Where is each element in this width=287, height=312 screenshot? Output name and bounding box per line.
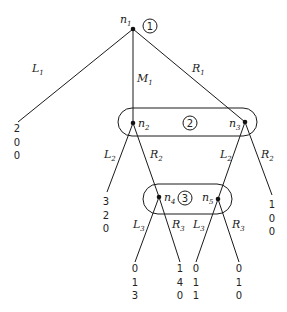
player-markers: 123 <box>143 19 197 205</box>
node-label-n4: n4 <box>164 191 176 206</box>
node-n2 <box>131 121 136 126</box>
edge-label-L2: L2 <box>219 148 232 163</box>
edge-label-R3: R3 <box>231 218 245 233</box>
edge-label-L3: L3 <box>132 218 145 233</box>
game-tree-diagram: L1M1R1L2R2L2R2L3R3L3R3 n1n2n3n4n5 123 20… <box>0 0 287 312</box>
edge-L1-from-n1 <box>18 29 133 122</box>
player-1-label: 1 <box>147 21 153 32</box>
decision-nodes: n1n2n3n4n5 <box>120 13 247 206</box>
payoff-M1-L2-p1: 3 <box>103 196 109 207</box>
edge-label-M1: M1 <box>136 72 153 87</box>
payoff-M1-L2-p2: 2 <box>103 210 109 221</box>
payoff-n4-R3-p2: 4 <box>177 277 183 288</box>
edge-label-R1: R1 <box>191 62 205 77</box>
node-n3 <box>243 120 248 125</box>
payoff-n5-R3-p2: 1 <box>236 277 242 288</box>
node-label-n3: n3 <box>229 117 241 132</box>
payoff-n5-R3-p1: 0 <box>236 263 242 274</box>
payoff-R1-R2-p3: 0 <box>269 226 275 237</box>
edge-label-L1: L1 <box>31 62 44 77</box>
payoff-n5-L3-p3: 1 <box>193 290 199 301</box>
payoff-n4-L3-p3: 3 <box>132 290 138 301</box>
edge-label-R2: R2 <box>149 148 163 163</box>
node-label-n5: n5 <box>202 191 214 206</box>
payoff-L1-p3: 0 <box>14 150 20 161</box>
edge-label-L3: L3 <box>192 218 205 233</box>
edge-label-R2: R2 <box>260 148 274 163</box>
payoff-n4-L3-p2: 1 <box>132 277 138 288</box>
payoff-L1-p1: 2 <box>14 123 20 134</box>
edge-label-L2: L2 <box>103 148 116 163</box>
payoff-R1-R2-p1: 1 <box>269 199 275 210</box>
node-label-n1: n1 <box>120 13 132 28</box>
payoff-L1-p2: 0 <box>14 137 20 148</box>
payoff-n5-L3-p2: 1 <box>193 277 199 288</box>
payoff-n4-R3-p3: 0 <box>177 290 183 301</box>
payoff-n4-L3-p1: 0 <box>132 263 138 274</box>
player-3-label: 3 <box>182 193 188 204</box>
payoff-vectors: 200320100013140011010 <box>14 123 275 301</box>
node-n5 <box>216 197 221 202</box>
payoff-n5-R3-p3: 0 <box>236 290 242 301</box>
tree-edges: L1M1R1L2R2L2R2L3R3L3R3 <box>18 29 274 262</box>
node-label-n2: n2 <box>138 117 150 132</box>
payoff-R1-R2-p2: 0 <box>269 213 275 224</box>
player-2-label: 2 <box>187 118 193 129</box>
payoff-n5-L3-p1: 0 <box>193 263 199 274</box>
payoff-M1-L2-p3: 0 <box>103 223 109 234</box>
node-n4 <box>157 195 162 200</box>
edge-label-R3: R3 <box>171 218 185 233</box>
payoff-n4-R3-p1: 1 <box>177 263 183 274</box>
